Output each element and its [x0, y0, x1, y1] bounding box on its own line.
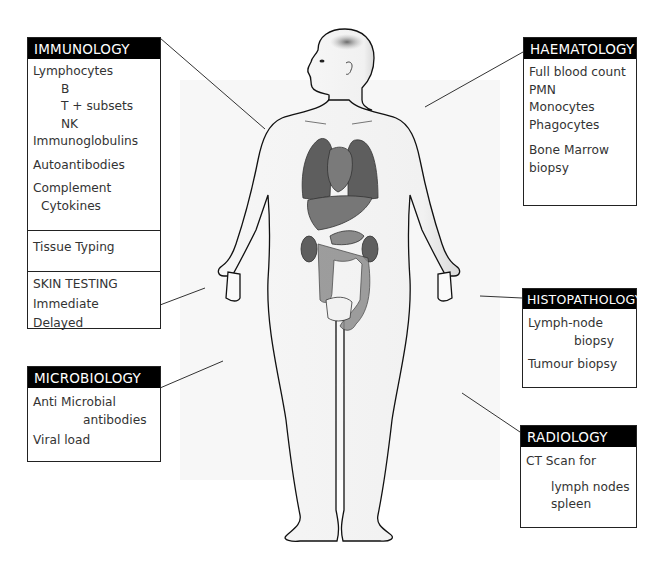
- haematology-item: biopsy: [529, 160, 630, 178]
- skin-testing-item: SKIN TESTING: [33, 276, 154, 294]
- microbiology-item: Anti Microbial: [33, 394, 154, 412]
- haematology-item: Phagocytes: [529, 117, 630, 135]
- tissue-typing-section: Tissue Typing: [28, 230, 160, 271]
- radiology-item: spleen: [526, 496, 630, 514]
- radiology-item: lymph nodes: [526, 479, 630, 497]
- histopathology-tests: Lymph-node biopsy Tumour biopsy: [523, 309, 636, 378]
- histopathology-item: biopsy: [528, 333, 630, 351]
- microbiology-title: MICROBIOLOGY: [28, 367, 160, 388]
- histopathology-panel: HISTOPATHOLOGY Lymph-node biopsy Tumour …: [522, 288, 637, 388]
- histopathology-item: Tumour biopsy: [528, 356, 630, 374]
- haematology-item: Monocytes: [529, 99, 630, 117]
- haematology-tests: Full blood count PMN Monocytes Phagocyte…: [524, 59, 636, 181]
- skin-testing-item: Immediate: [33, 296, 154, 314]
- immunology-title: IMMUNOLOGY: [28, 38, 160, 59]
- radiology-item: CT Scan for: [526, 453, 630, 471]
- brain-highlight: [330, 34, 364, 50]
- eye: [320, 59, 325, 62]
- immunology-item: Lymphocytes: [33, 63, 154, 81]
- immunology-item: B: [33, 81, 154, 99]
- immunology-item: NK: [33, 116, 154, 134]
- tissue-typing-label: Tissue Typing: [33, 239, 154, 257]
- left-kidney: [301, 236, 317, 262]
- microbiology-item: antibodies: [33, 412, 154, 430]
- haematology-item: Bone Marrow: [529, 142, 630, 160]
- haematology-title: HAEMATOLOGY: [524, 38, 636, 59]
- histopathology-title: HISTOPATHOLOGY: [523, 289, 636, 309]
- haematology-item: Full blood count: [529, 64, 630, 82]
- radiology-title: RADIOLOGY: [521, 426, 636, 447]
- skin-testing-item: Delayed: [33, 315, 154, 333]
- immunology-item: Immunoglobulins: [33, 133, 154, 151]
- radiology-tests: CT Scan for lymph nodes spleen: [521, 447, 636, 518]
- radiology-panel: RADIOLOGY CT Scan for lymph nodes spleen: [520, 425, 637, 528]
- skin-testing-section: SKIN TESTING Immediate Delayed: [28, 271, 160, 337]
- haematology-item: PMN: [529, 82, 630, 100]
- bladder: [326, 297, 352, 321]
- immunology-item: Autoantibodies: [33, 157, 154, 175]
- immunology-item: Complement: [33, 180, 154, 198]
- immunology-item: T + subsets: [33, 98, 154, 116]
- immunology-item: Cytokines: [33, 198, 154, 216]
- immunology-panel: IMMUNOLOGY Lymphocytes B T + subsets NK …: [27, 37, 161, 329]
- immunology-tests: Lymphocytes B T + subsets NK Immunoglobu…: [28, 59, 160, 230]
- microbiology-panel: MICROBIOLOGY Anti Microbial antibodies V…: [27, 366, 161, 462]
- histopathology-item: Lymph-node: [528, 315, 630, 333]
- microbiology-item: Viral load: [33, 432, 154, 450]
- haematology-panel: HAEMATOLOGY Full blood count PMN Monocyt…: [523, 37, 637, 206]
- microbiology-tests: Anti Microbial antibodies Viral load: [28, 388, 160, 454]
